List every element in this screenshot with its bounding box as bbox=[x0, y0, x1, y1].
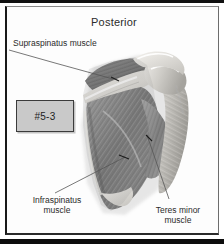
teres-minor-label-line2: muscle bbox=[138, 215, 218, 225]
plate-number-text: #5-3 bbox=[34, 111, 55, 122]
figure-plate: illustration credit Posterior Supraspina… bbox=[5, 6, 219, 235]
teres-minor-muscle-label: Teres minor muscle bbox=[138, 205, 218, 225]
supraspinatus-muscle-label: Supraspinatus muscle bbox=[13, 38, 97, 48]
infraspinatus-label-line2: muscle bbox=[18, 205, 96, 215]
figure-title: Posterior bbox=[7, 16, 219, 28]
bottom-rule bbox=[0, 239, 224, 244]
teres-minor-label-line1: Teres minor bbox=[138, 205, 218, 215]
plate-number-chip: #5-3 bbox=[16, 100, 74, 132]
infraspinatus-label-line1: Infraspinatus bbox=[18, 195, 96, 205]
top-rule bbox=[0, 0, 224, 3]
infraspinatus-muscle-label: Infraspinatus muscle bbox=[18, 195, 96, 215]
anatomy-figure: illustration credit Posterior Supraspina… bbox=[0, 0, 224, 244]
leader-line-supraspinatus bbox=[9, 50, 113, 79]
supraspinatus-label-line1: Supraspinatus muscle bbox=[13, 38, 97, 48]
